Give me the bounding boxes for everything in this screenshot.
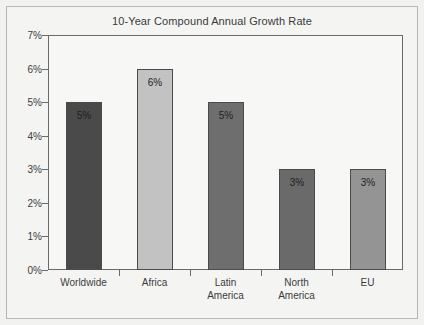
chart-title: 10-Year Compound Annual Growth Rate [0, 15, 424, 27]
bar-value-label: 3% [351, 178, 385, 188]
plot-area: 5%6%5%3%3% [48, 35, 403, 270]
bar[interactable]: 5% [66, 102, 102, 270]
x-category-label: North America [261, 276, 332, 302]
x-category-label: Africa [119, 276, 190, 289]
bar[interactable]: 3% [350, 169, 386, 270]
bar-value-label: 6% [138, 78, 172, 88]
y-axis-tick-marks [0, 35, 48, 270]
bar-value-label: 5% [67, 111, 101, 121]
bar[interactable]: 3% [279, 169, 315, 270]
bar-value-label: 3% [280, 178, 314, 188]
bar-value-label: 5% [209, 111, 243, 121]
bar[interactable]: 6% [137, 69, 173, 270]
chart-figure: 10-Year Compound Annual Growth Rate 0%1%… [0, 0, 424, 325]
x-category-label: EU [332, 276, 403, 289]
x-category-label: Latin America [190, 276, 261, 302]
x-category-label: Worldwide [48, 276, 119, 289]
x-axis-category-labels: WorldwideAfricaLatin AmericaNorth Americ… [48, 276, 403, 318]
bar[interactable]: 5% [208, 102, 244, 270]
